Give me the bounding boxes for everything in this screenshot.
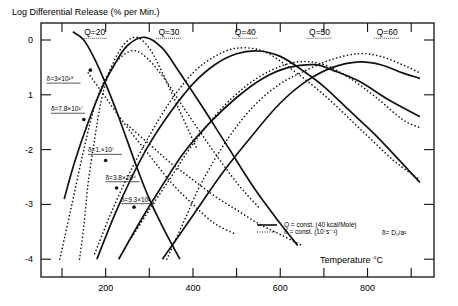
chart-title: Log Differential Release (% per Min.) [12, 7, 159, 17]
y-tick-label: -2 [25, 145, 33, 155]
x-tick-label: 200 [98, 283, 113, 293]
dotted-curve [128, 125, 303, 246]
delta-label: δ=3×10¹⁸ [47, 75, 74, 82]
dotted-curve [60, 51, 259, 260]
differential-release-chart: Log Differential Release (% per Min.) 20… [0, 0, 458, 306]
q-label: Q=30 [158, 27, 179, 37]
legend-dotted-label: δ = const. (10⁷s⁻¹) [284, 228, 338, 236]
delta-marker [89, 68, 93, 72]
q-labels: Q=20Q=30Q=40Q=50Q=60 [82, 27, 400, 38]
delta-label: δ=7.8×10¹⁷ [51, 105, 84, 112]
q-label: Q=50 [309, 27, 330, 37]
delta-label: δ=1.×10⁷ [88, 146, 115, 153]
x-tick-label: 600 [273, 283, 288, 293]
q-label: Q=60 [377, 27, 398, 37]
legend-note: δ= D₀/a² [382, 229, 407, 236]
x-axis-label: Temperature °C [320, 255, 384, 265]
y-tick-label: -3 [25, 199, 33, 209]
q-label: Q=40 [235, 27, 256, 37]
delta-label: δ=3.8×10⁴ [105, 174, 135, 181]
y-tick-label: 0 [28, 35, 33, 45]
x-tick-label: 400 [185, 283, 200, 293]
x-tick-label: 800 [360, 283, 375, 293]
delta-marker [104, 159, 108, 163]
delta-label: δ=9.3×10² [121, 196, 151, 203]
delta-marker [82, 118, 86, 122]
dotted-curve [132, 62, 420, 238]
delta-marker [132, 205, 136, 209]
delta-marker [115, 186, 119, 190]
y-tick-label: 1 [28, 90, 33, 100]
q-label: Q=20 [84, 27, 105, 37]
solid-curve [97, 51, 420, 259]
y-tick-label: -4 [25, 254, 33, 264]
